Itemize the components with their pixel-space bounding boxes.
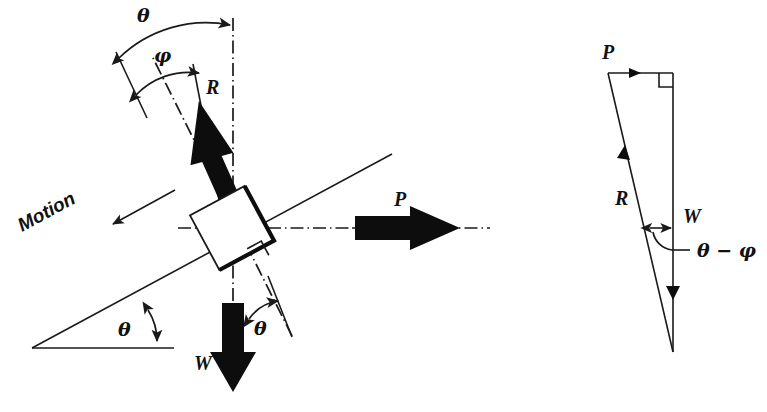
right-angle-marker-triangle xyxy=(659,73,673,87)
r-vector-label: R xyxy=(614,187,628,209)
p-vector-label: P xyxy=(601,41,615,63)
w-vector-label: W xyxy=(683,205,702,227)
weight-force-label: W xyxy=(194,352,213,374)
theta-top-label: θ xyxy=(137,4,150,26)
free-body-diagram: θ θ φ R xyxy=(14,4,490,392)
normal-lower-segment xyxy=(268,276,292,337)
r-vector-arrowhead xyxy=(617,145,630,160)
phi-arc xyxy=(136,72,199,95)
applied-force-arrow xyxy=(355,206,460,250)
triangle-angle-arc xyxy=(653,232,672,250)
r-vector-line xyxy=(608,73,673,352)
triangle-angle-label: θ − φ xyxy=(697,239,756,261)
weight-force-arrow xyxy=(210,303,256,392)
theta-arc-top xyxy=(119,23,230,58)
force-triangle: P W R θ − φ xyxy=(601,41,756,352)
p-vector-arrowhead xyxy=(629,68,641,78)
block-body xyxy=(190,186,274,270)
motion-arrow xyxy=(113,190,175,224)
reaction-force-arrow xyxy=(184,98,239,203)
reaction-force-label: R xyxy=(205,76,219,98)
block-face xyxy=(190,186,274,270)
incline-angle-label: θ xyxy=(118,318,131,340)
applied-force-label: P xyxy=(393,188,407,210)
incline-angle-arc xyxy=(148,310,157,341)
w-vector-arrowhead xyxy=(666,286,680,300)
physics-diagram-svg: θ θ φ R xyxy=(0,0,767,412)
figure-root: θ θ φ R xyxy=(0,0,767,412)
phi-label: φ xyxy=(154,44,171,66)
theta-weight-label: θ xyxy=(254,317,267,339)
theta-left-leg xyxy=(116,52,147,118)
motion-label: Motion xyxy=(14,188,79,236)
